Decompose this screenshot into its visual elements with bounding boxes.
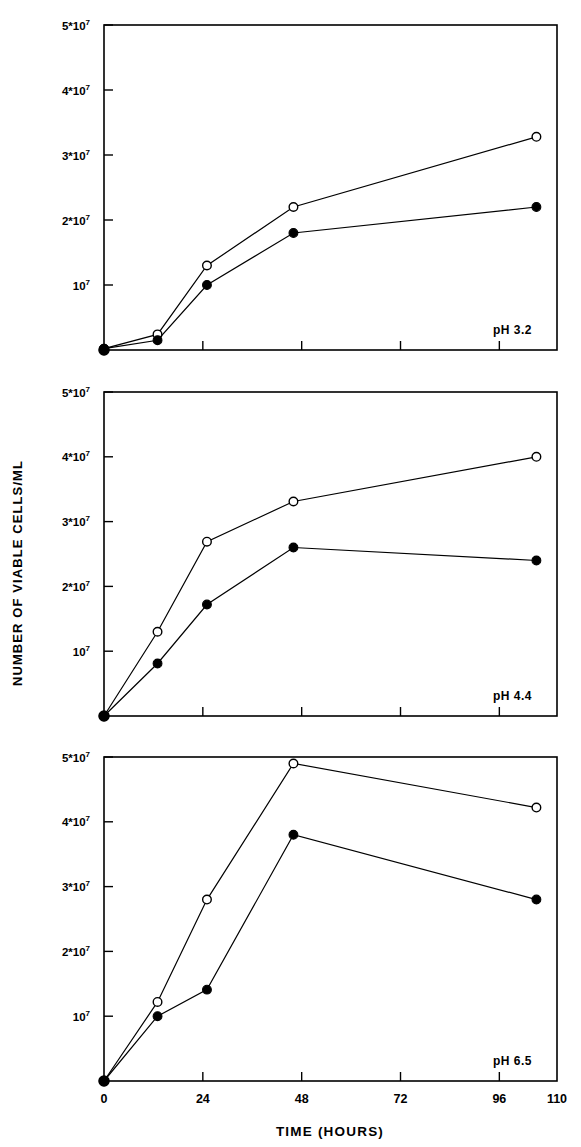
x-axis-title-text: TIME (HOURS): [276, 1124, 384, 1139]
panel-ph-label: pH 6.5: [493, 1054, 532, 1068]
x-tick-label: 96: [492, 1092, 506, 1106]
data-point-open-circle: [153, 998, 162, 1007]
panel-ph-label: pH 4.4: [493, 689, 532, 703]
panel-ph-label: pH 3.2: [493, 323, 532, 337]
data-point-filled-circle: [203, 600, 212, 609]
data-point-open-circle: [289, 497, 298, 506]
origin-point: [99, 1076, 109, 1086]
data-point-open-circle: [532, 803, 541, 812]
y-axis-title-text: NUMBER OF VIABLE CELLS/ML: [10, 460, 25, 686]
x-tick-label: 0: [101, 1092, 108, 1106]
growth-curve-figure: 1072*1073*1074*1075*107pH 3.21072*1073*1…: [0, 0, 581, 1147]
x-tick-label: 72: [394, 1092, 408, 1106]
x-tick-label: 110: [547, 1092, 567, 1106]
data-point-filled-circle: [153, 336, 162, 345]
x-tick-label: 24: [196, 1092, 210, 1106]
data-point-open-circle: [203, 261, 212, 270]
x-axis-title: TIME (HOURS): [276, 1124, 384, 1139]
data-point-open-circle: [203, 537, 212, 546]
figure-background: [0, 0, 581, 1147]
origin-point: [99, 345, 109, 355]
data-point-open-circle: [532, 133, 541, 142]
origin-point: [99, 711, 109, 721]
y-axis-title: NUMBER OF VIABLE CELLS/ML: [10, 460, 25, 686]
data-point-open-circle: [289, 203, 298, 212]
data-point-filled-circle: [532, 556, 541, 565]
x-tick-label: 48: [295, 1092, 309, 1106]
data-point-filled-circle: [532, 895, 541, 904]
data-point-open-circle: [289, 759, 298, 768]
data-point-filled-circle: [153, 1012, 162, 1021]
data-point-filled-circle: [289, 229, 298, 238]
data-point-filled-circle: [153, 659, 162, 668]
figure-canvas: 1072*1073*1074*1075*107pH 3.21072*1073*1…: [0, 0, 581, 1147]
data-point-open-circle: [532, 453, 541, 462]
data-point-open-circle: [203, 895, 212, 904]
data-point-filled-circle: [289, 543, 298, 552]
data-point-filled-circle: [289, 830, 298, 839]
data-point-filled-circle: [203, 985, 212, 994]
data-point-filled-circle: [203, 281, 212, 290]
data-point-filled-circle: [532, 203, 541, 212]
data-point-open-circle: [153, 627, 162, 636]
